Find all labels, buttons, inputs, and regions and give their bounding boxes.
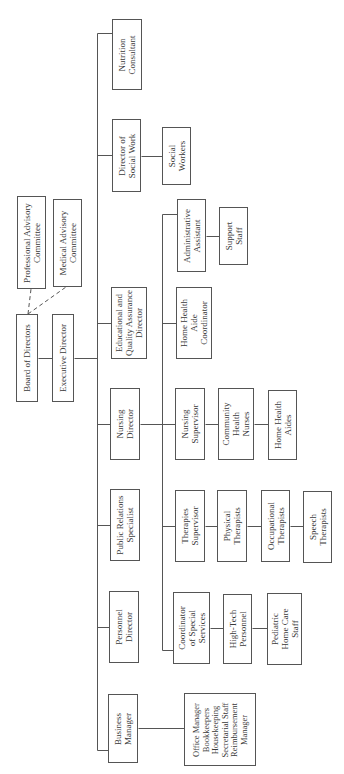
org-node-executive: Executive Director	[52, 314, 74, 402]
org-node-support-staff: Support Staff	[219, 207, 248, 265]
org-node-label: Social Workers	[167, 141, 187, 171]
org-node-business-manager: Business Manager	[108, 694, 138, 763]
org-node-label: Director of Social Work	[117, 133, 137, 177]
org-node-label: High-Tech Personnel	[228, 610, 248, 648]
org-node-label: Professional Advisory Committee	[22, 203, 42, 283]
org-node-label: Home Health Aide Coordinator	[179, 299, 209, 347]
org-node-label: Office Manager Bookkeepers Housekeeping …	[192, 702, 249, 757]
org-node-therapies-supervisor: Therapies Supervisor	[175, 490, 205, 562]
org-node-label: Therapies Supervisor	[180, 507, 200, 546]
org-node-speech-therapists: Speech Therapists	[303, 491, 332, 563]
org-node-label: Community Health Nurses	[221, 402, 251, 445]
org-node-label: Occupational Therapists	[266, 502, 286, 550]
org-node-community-nurses: Community Health Nurses	[218, 388, 254, 460]
org-node-label: Educational and Quality Assurance Direct…	[114, 290, 144, 356]
org-node-high-tech: High-Tech Personnel	[223, 594, 252, 664]
org-node-professional: Professional Advisory Committee	[17, 196, 46, 289]
org-node-nutrition: Nutrition Consultant	[112, 19, 142, 90]
org-node-label: Administrative Assistant	[182, 209, 202, 263]
org-node-label: Home Health Aides	[273, 401, 293, 449]
org-node-label: Coordinator of Special Services	[177, 606, 207, 650]
org-node-occupational-therapists: Occupational Therapists	[261, 490, 290, 562]
org-chart: Professional Advisory CommitteeMedical A…	[0, 0, 344, 774]
org-node-admin-assistant: Administrative Assistant	[177, 199, 206, 272]
org-node-pediatric: Pediatric Home Care Staff	[267, 593, 302, 665]
org-node-physical-therapists: Physical Therapists	[217, 490, 247, 562]
org-node-label: Nursing Supervisor	[180, 405, 200, 444]
advisory-dashed-line	[28, 289, 31, 314]
org-node-label: Nutrition Consultant	[117, 35, 137, 74]
org-node-label: Board of Directors	[22, 324, 32, 391]
org-node-label: Physical Therapists	[222, 507, 242, 545]
org-node-special-services: Coordinator of Special Services	[173, 592, 210, 664]
org-node-label: Personnel Director	[114, 609, 134, 645]
org-node-label: Medical Advisory Committee	[58, 211, 78, 276]
org-node-medical: Medical Advisory Committee	[53, 199, 82, 287]
org-node-home-health-aides: Home Health Aides	[268, 390, 297, 460]
org-node-nursing-director: Nursing Director	[110, 388, 140, 460]
org-node-label: Nursing Director	[115, 409, 135, 439]
org-node-educational: Educational and Quality Assurance Direct…	[111, 287, 147, 359]
advisory-dashed-line	[28, 287, 66, 314]
org-node-public-relations: Public Relations Specialist	[110, 489, 140, 561]
org-node-social-director: Director of Social Work	[112, 119, 141, 192]
org-node-office-staff: Office Manager Bookkeepers Housekeeping …	[184, 693, 256, 766]
org-node-label: Public Relations Specialist	[115, 495, 135, 554]
org-node-label: Pediatric Home Care Staff	[270, 608, 300, 649]
org-node-label: Executive Director	[58, 324, 68, 392]
org-node-personnel-director: Personnel Director	[109, 591, 139, 663]
org-node-social-workers: Social Workers	[162, 127, 191, 185]
org-node-hha-coordinator: Home Health Aide Coordinator	[176, 287, 212, 359]
org-node-label: Business Manager	[113, 712, 133, 744]
org-node-label: Speech Therapists	[308, 508, 328, 546]
org-node-nursing-supervisor: Nursing Supervisor	[175, 388, 205, 460]
org-node-label: Support Staff	[224, 222, 244, 251]
org-node-board: Board of Directors	[16, 314, 38, 402]
